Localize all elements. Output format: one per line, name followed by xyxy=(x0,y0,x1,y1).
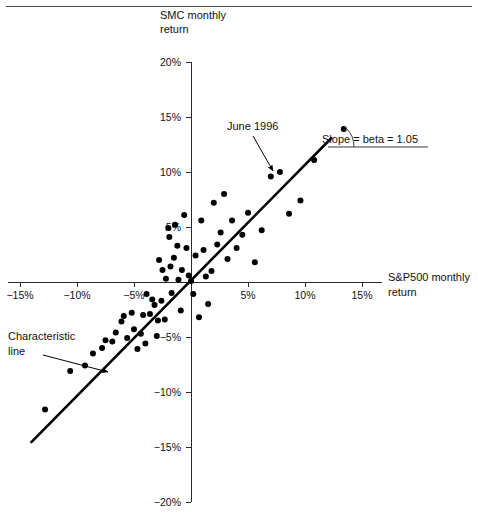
data-point xyxy=(118,319,124,325)
x-tick-label: −15% xyxy=(6,289,33,301)
y-tick-label: −10% xyxy=(154,386,181,398)
y-tick-label: 15% xyxy=(160,111,181,123)
data-point xyxy=(67,368,73,374)
data-point xyxy=(149,297,155,303)
data-point xyxy=(286,211,292,217)
x-axis-title-line1: S&P500 monthly xyxy=(388,271,470,283)
data-point xyxy=(174,243,180,249)
x-tick-label: −5% xyxy=(123,289,144,301)
data-point xyxy=(211,200,217,206)
data-point xyxy=(42,407,48,413)
data-point xyxy=(163,276,169,282)
data-point xyxy=(160,267,166,273)
data-point xyxy=(162,316,168,322)
data-point xyxy=(193,253,199,259)
x-tick-label: 5% xyxy=(240,289,255,301)
data-point xyxy=(165,225,171,231)
scatter-plot: −15%−10%−5%5%10%15% 20%15%10%5%−5%−10%−1… xyxy=(0,0,478,531)
characteristic-line-label-line2: line xyxy=(8,345,25,357)
data-point xyxy=(297,198,303,204)
data-point xyxy=(131,326,137,332)
data-point xyxy=(103,337,109,343)
data-point xyxy=(209,268,215,274)
data-point xyxy=(134,346,140,352)
y-tick-label: −15% xyxy=(154,441,181,453)
data-point xyxy=(121,313,127,319)
data-point xyxy=(277,169,283,175)
axes xyxy=(8,62,382,502)
y-tick-label: 20% xyxy=(160,56,181,68)
data-point xyxy=(129,310,135,316)
data-point xyxy=(198,217,204,223)
y-axis-title-line2: return xyxy=(160,23,189,35)
data-point xyxy=(214,242,220,248)
slope-beta-label: Slope = beta = 1.05 xyxy=(322,133,418,145)
data-point xyxy=(144,291,150,297)
data-point xyxy=(268,173,274,179)
data-point xyxy=(201,247,207,253)
data-point xyxy=(167,264,173,270)
data-point xyxy=(113,330,119,336)
data-point xyxy=(181,212,187,218)
data-point xyxy=(158,298,164,304)
data-point xyxy=(169,290,175,296)
data-point xyxy=(172,222,178,228)
data-point xyxy=(183,245,189,251)
x-tick-label: 15% xyxy=(351,289,372,301)
data-point xyxy=(90,351,96,357)
june-1996-label: June 1996 xyxy=(227,120,278,132)
data-point xyxy=(203,274,209,280)
data-point xyxy=(147,311,153,317)
data-point xyxy=(179,267,185,273)
data-point xyxy=(224,256,230,262)
data-point xyxy=(234,245,240,251)
data-point xyxy=(156,257,162,263)
data-point xyxy=(152,302,158,308)
data-point xyxy=(245,210,251,216)
data-point xyxy=(166,234,172,240)
data-point xyxy=(99,345,105,351)
x-axis-title-line2: return xyxy=(388,286,417,298)
data-point xyxy=(190,291,196,297)
data-point xyxy=(142,341,148,347)
data-point xyxy=(259,227,265,233)
data-point xyxy=(196,314,202,320)
y-tick-label: −20% xyxy=(154,496,181,508)
data-point xyxy=(229,217,235,223)
data-point xyxy=(154,333,160,339)
y-tick-label: 10% xyxy=(160,166,181,178)
figure-container: −15%−10%−5%5%10%15% 20%15%10%5%−5%−10%−1… xyxy=(0,0,478,531)
data-point xyxy=(109,338,115,344)
data-point xyxy=(124,335,130,341)
data-point xyxy=(205,301,211,307)
x-tick-label: −10% xyxy=(63,289,90,301)
characteristic-line-arrow xyxy=(43,355,108,372)
y-axis-title-line1: SMC monthly xyxy=(160,9,227,21)
data-point xyxy=(171,255,177,261)
x-axis-ticks: −15%−10%−5%5%10%15% xyxy=(6,282,372,301)
data-point xyxy=(175,277,181,283)
data-point xyxy=(186,272,192,278)
data-point xyxy=(341,126,347,132)
characteristic-line-label-line1: Characteristic xyxy=(8,330,76,342)
data-point xyxy=(140,312,146,318)
data-point xyxy=(155,318,161,324)
data-point xyxy=(178,308,184,314)
data-point xyxy=(221,191,227,197)
data-point xyxy=(252,259,258,265)
june-1996-arrow xyxy=(253,136,273,171)
data-point xyxy=(239,232,245,238)
y-tick-label: −5% xyxy=(160,331,181,343)
data-point xyxy=(218,230,224,236)
x-tick-label: 10% xyxy=(294,289,315,301)
